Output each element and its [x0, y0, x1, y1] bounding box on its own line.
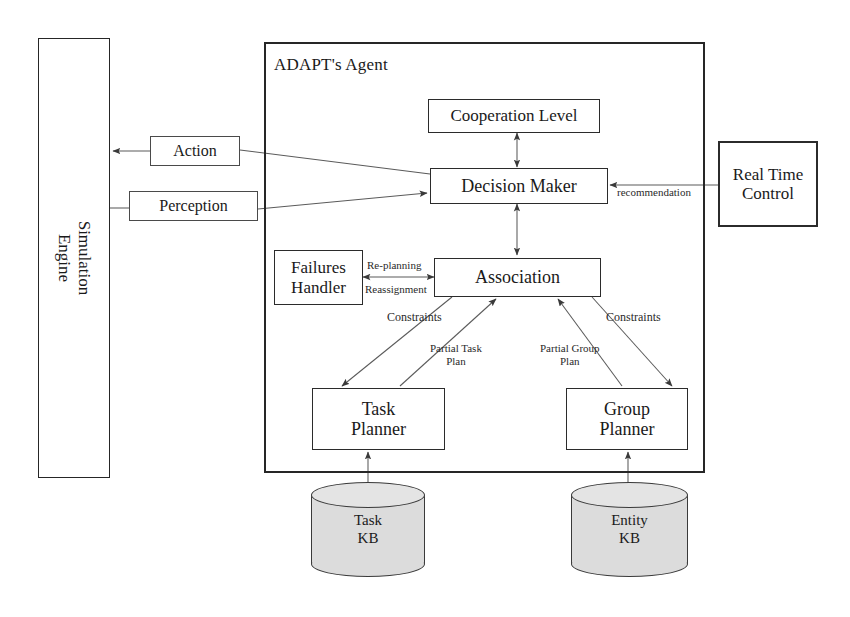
node-entity-kb[interactable]: Entity KB [571, 482, 688, 577]
node-association[interactable]: Association [434, 258, 601, 297]
partial-task-plan-line1: Partial Task [430, 342, 482, 355]
edge-label-constraints-right: Constraints [606, 311, 661, 325]
agent-boundary-label: ADAPT's Agent [274, 55, 388, 75]
node-cooperation-level[interactable]: Cooperation Level [428, 99, 600, 133]
real-time-control-label-line2: Control [742, 184, 794, 203]
node-simulation-engine[interactable]: Simulation Engine [38, 38, 110, 478]
real-time-control-label-line1: Real Time [733, 165, 803, 184]
partial-group-plan-line1: Partial Group [540, 342, 600, 355]
entity-kb-top-ellipse [571, 482, 688, 508]
node-task-planner[interactable]: Task Planner [312, 388, 445, 450]
node-group-planner[interactable]: Group Planner [566, 388, 688, 450]
entity-kb-label-line2: KB [571, 530, 688, 549]
task-kb-label-line1: Task [311, 511, 425, 530]
task-kb-top-ellipse [311, 482, 425, 508]
edge-label-constraints-left: Constraints [387, 311, 442, 325]
group-planner-label-line1: Group [604, 399, 650, 419]
group-planner-label-line2: Planner [600, 419, 655, 439]
action-label: Action [173, 142, 217, 160]
simulation-engine-label-line1: Simulation [74, 221, 94, 296]
partial-task-plan-line2: Plan [430, 355, 482, 368]
edge-label-replanning: Re-planning [367, 259, 421, 272]
task-kb-label: Task KB [311, 511, 425, 549]
diagram-canvas: ADAPT's Agent Simulation Engine Action P… [0, 0, 850, 617]
edge-label-reassignment: Reassignment [365, 283, 427, 296]
simulation-engine-label: Simulation Engine [54, 221, 93, 296]
node-perception[interactable]: Perception [129, 191, 258, 221]
node-real-time-control[interactable]: Real Time Control [718, 141, 818, 227]
node-decision-maker[interactable]: Decision Maker [430, 168, 608, 204]
task-planner-label-line1: Task [362, 399, 396, 419]
node-task-kb[interactable]: Task KB [311, 482, 425, 577]
entity-kb-label-line1: Entity [571, 511, 688, 530]
decision-maker-label: Decision Maker [461, 176, 576, 196]
simulation-engine-label-line2: Engine [54, 221, 74, 296]
task-planner-label-line2: Planner [351, 419, 406, 439]
partial-group-plan-line2: Plan [540, 355, 600, 368]
perception-label: Perception [159, 197, 227, 215]
edge-label-recommendation: recommendation [617, 186, 691, 199]
entity-kb-label: Entity KB [571, 511, 688, 549]
cooperation-level-label: Cooperation Level [451, 106, 578, 125]
failures-handler-label-line2: Handler [291, 278, 346, 297]
failures-handler-label-line1: Failures [291, 258, 346, 277]
node-action[interactable]: Action [150, 136, 240, 166]
node-failures-handler[interactable]: Failures Handler [274, 250, 363, 305]
task-kb-label-line2: KB [311, 530, 425, 549]
edge-label-partial-group-plan: Partial Group Plan [540, 342, 600, 367]
edge-label-partial-task-plan: Partial Task Plan [430, 342, 482, 367]
association-label: Association [475, 267, 560, 287]
